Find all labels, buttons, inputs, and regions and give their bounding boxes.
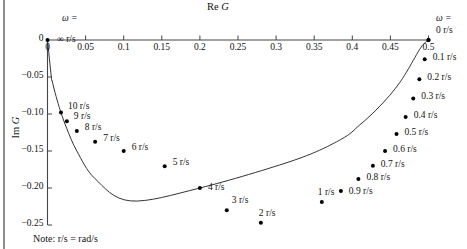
data-point-label: 10 r/s	[68, 102, 89, 112]
data-point-label: 6 r/s	[132, 143, 149, 153]
data-point-marker	[395, 132, 399, 136]
data-point-marker	[65, 119, 69, 123]
figure-note: Note: r/s = rad/s	[33, 234, 98, 245]
data-point-label: 1 r/s	[318, 188, 335, 198]
omega-equals-left: ω =	[62, 14, 78, 24]
data-point-marker	[371, 164, 375, 168]
data-point-marker	[423, 57, 427, 61]
data-point-label: 0.4 r/s	[414, 111, 438, 121]
data-point-label: 2 r/s	[259, 209, 276, 219]
data-point-marker	[259, 221, 263, 225]
data-point-marker	[383, 149, 387, 153]
data-point-marker	[198, 186, 202, 190]
data-point-label: 0.3 r/s	[421, 92, 445, 102]
data-point-marker	[417, 77, 421, 81]
y-axis-title-im: Im	[10, 127, 21, 139]
y-tick-label: −0.10	[4, 108, 44, 118]
x-tick-label: 0.15	[142, 43, 182, 53]
data-point-marker	[411, 96, 415, 100]
data-point-label: 0.2 r/s	[427, 73, 451, 83]
data-point-marker	[59, 111, 63, 115]
data-point-label: 0.6 r/s	[393, 145, 417, 155]
x-tick-label: 0.25	[218, 43, 258, 53]
x-tick-label: 0.3	[256, 43, 296, 53]
origin-tick-label: 0	[4, 34, 44, 44]
data-point-marker	[404, 115, 408, 119]
data-point-marker	[225, 208, 229, 212]
data-point-marker	[122, 149, 126, 153]
data-point-marker	[163, 164, 167, 168]
x-axis-title-g: G	[221, 1, 229, 12]
omega-value-zero: 0 r/s	[436, 26, 453, 36]
data-point-label: 0.7 r/s	[381, 160, 405, 170]
x-tick-label: 0.1	[104, 43, 144, 53]
y-tick-label: −0.05	[4, 71, 44, 81]
x-tick-label: 0	[28, 43, 68, 53]
data-point-label: 7 r/s	[103, 134, 120, 144]
data-point-label: 8 r/s	[85, 123, 102, 133]
x-axis-title: Re G	[207, 1, 229, 12]
data-point-marker	[356, 177, 360, 181]
x-tick-label: 0.35	[294, 43, 334, 53]
x-tick-label: 0.4	[332, 43, 372, 53]
data-point-marker	[75, 129, 79, 133]
y-tick-label: −0.15	[4, 145, 44, 155]
data-point-marker	[93, 140, 97, 144]
data-point-label: 4 r/s	[208, 183, 225, 193]
x-tick-label: 0.05	[66, 43, 106, 53]
nyquist-plot-figure: Re G Im G ω = ∞ r/s ω = 0 r/s Note: r/s …	[0, 0, 467, 249]
data-point-label: 9 r/s	[74, 112, 91, 122]
x-tick-label: 0.2	[180, 43, 220, 53]
data-point-label: 0.9 r/s	[349, 187, 373, 197]
data-point-marker	[339, 189, 343, 193]
omega-equals-right: ω =	[436, 14, 452, 24]
data-point-label: 0.8 r/s	[366, 173, 390, 183]
data-point-label: 3 r/s	[232, 196, 249, 206]
data-point-marker	[320, 200, 324, 204]
data-point-label: 5 r/s	[173, 158, 190, 168]
x-tick-label: 0.45	[370, 43, 410, 53]
x-axis-title-re: Re	[207, 1, 219, 12]
data-point-label: 0.5 r/s	[404, 128, 428, 138]
y-tick-label: −0.20	[4, 182, 44, 192]
y-tick-label: −0.25	[4, 219, 44, 229]
data-point-label: 0.1 r/s	[433, 53, 457, 63]
